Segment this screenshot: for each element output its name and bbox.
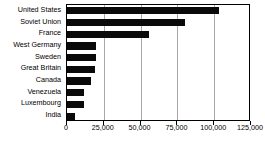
- x-axis-tick-labels: 025,00050,00075,000100,000125,000: [0, 123, 265, 137]
- horizontal-bar-chart: United StatesSoviet UnionFranceWest Germ…: [0, 0, 265, 142]
- bar: [67, 54, 96, 61]
- bar: [67, 113, 75, 120]
- bar: [67, 101, 84, 108]
- plot-area: [66, 4, 250, 121]
- bar: [67, 66, 95, 73]
- category-label: Venezuela: [27, 88, 61, 96]
- category-label: Luxembourg: [21, 99, 61, 107]
- category-axis-labels: United StatesSoviet UnionFranceWest Germ…: [0, 4, 64, 121]
- bar-series: [67, 5, 249, 120]
- bar: [67, 89, 84, 96]
- bar: [67, 42, 96, 49]
- category-label: France: [39, 29, 61, 37]
- category-label: Canada: [36, 76, 61, 84]
- x-tick-label: 125,000: [237, 123, 263, 132]
- category-label: Sweden: [35, 53, 61, 61]
- x-tick-label: 50,000: [129, 123, 151, 132]
- bar: [67, 31, 149, 38]
- category-label: Soviet Union: [20, 18, 61, 26]
- bar: [67, 19, 185, 26]
- x-tick-label: 0: [64, 123, 68, 132]
- category-label: West Germany: [13, 41, 61, 49]
- bar: [67, 77, 91, 84]
- x-tick-label: 25,000: [92, 123, 114, 132]
- category-label: India: [45, 111, 61, 119]
- bar: [67, 7, 219, 14]
- x-tick-label: 100,000: [200, 123, 226, 132]
- category-label: Great Britain: [21, 64, 61, 72]
- x-tick-label: 75,000: [165, 123, 187, 132]
- category-label: United States: [18, 6, 61, 14]
